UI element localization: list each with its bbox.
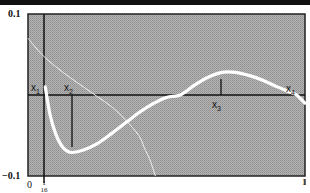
- x-tick-one-sixteenth: 1 16: [37, 180, 51, 193]
- x-tick-zero: 0: [27, 180, 32, 190]
- annotation-x2: x2: [64, 83, 73, 97]
- annotation-x4: x4: [286, 84, 295, 98]
- frac-denominator: 16: [37, 187, 51, 193]
- y-tick-bottom: −0.1: [2, 171, 20, 181]
- y-tick-top: 0.1: [8, 9, 21, 19]
- chart-plot: [0, 0, 310, 193]
- x-tick-one: 1: [302, 178, 306, 188]
- annotation-x1: x1: [31, 83, 40, 97]
- annotation-x3: x3: [212, 100, 221, 114]
